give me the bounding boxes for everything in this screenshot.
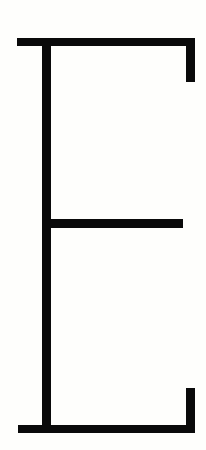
top-right-serif [186, 38, 195, 82]
bottom-bar [18, 425, 195, 433]
middle-bar [42, 219, 183, 228]
letter-e-glyph: E [0, 0, 206, 450]
glyph-character: E [0, 0, 1, 1]
bottom-right-serif [186, 388, 195, 433]
vertical-stem [42, 38, 51, 433]
